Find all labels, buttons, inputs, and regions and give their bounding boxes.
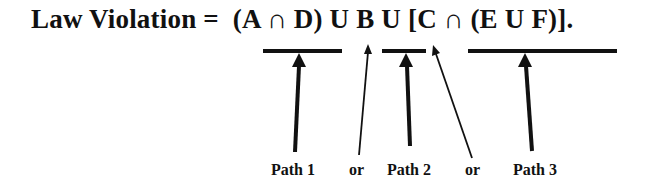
path-diagram <box>0 0 658 189</box>
label-path-1: Path 1 <box>271 161 315 179</box>
arrow-or-1 <box>359 44 372 155</box>
label-path-2: Path 2 <box>387 161 431 179</box>
label-or-1: or <box>349 161 364 179</box>
arrow-path-3 <box>518 53 532 151</box>
arrow-path-1 <box>292 53 306 152</box>
arrow-path-2 <box>399 53 413 146</box>
label-or-2: or <box>465 161 480 179</box>
label-path-3: Path 3 <box>513 161 557 179</box>
arrow-or-2 <box>432 45 472 158</box>
